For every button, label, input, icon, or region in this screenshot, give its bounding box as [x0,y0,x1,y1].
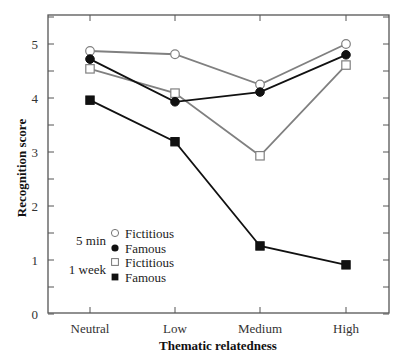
legend-entry-label: Famous [125,270,166,285]
filled-square-marker [171,138,179,146]
y-tick-label: 5 [32,37,39,52]
legend-open-square-icon [112,259,119,266]
filled-square-marker [86,96,94,104]
x-axis-title: Thematic relatedness [159,338,277,353]
legend-filled-circle-icon [111,244,118,251]
filled-circle-marker [171,97,180,106]
series-1-week-fictitious [86,61,350,160]
y-tick-label: 4 [32,91,39,106]
filled-square-marker [342,261,350,269]
series-5-min-fictitious [86,40,351,89]
filled-square-marker [256,242,264,250]
filled-circle-marker [86,55,95,64]
legend-entry-label: Fictitious [125,226,174,241]
filled-circle-marker [256,88,265,97]
legend-entry-label: Fictitious [125,255,174,270]
legend-entry-label: Famous [125,241,166,256]
open-circle-marker [86,47,95,56]
open-square-marker [256,152,264,160]
legend-open-circle-icon [111,229,118,236]
y-axis-title: Recognition score [14,119,29,218]
open-square-marker [86,65,94,73]
legend: 5 minFictitiousFamous1 weekFictitiousFam… [69,226,174,285]
legend-group-label: 1 week [69,262,107,277]
open-square-marker [342,61,350,69]
x-tick-label: Neutral [71,321,110,336]
open-square-marker [171,89,179,97]
y-tick-label: 0 [32,307,39,322]
x-axis: NeutralLowMediumHigh [71,15,360,336]
x-tick-label: High [333,321,360,336]
y-tick-label: 2 [32,199,39,214]
line-chart: 012345 NeutralLowMediumHigh 5 minFictiti… [0,0,402,362]
x-tick-label: Medium [238,321,282,336]
y-tick-label: 1 [32,253,39,268]
x-tick-label: Low [163,321,187,336]
legend-filled-square-icon [112,274,119,281]
filled-circle-marker [342,51,351,60]
legend-group-label: 5 min [76,233,106,248]
open-circle-marker [342,40,351,49]
y-tick-label: 3 [32,145,39,160]
open-circle-marker [171,50,180,59]
